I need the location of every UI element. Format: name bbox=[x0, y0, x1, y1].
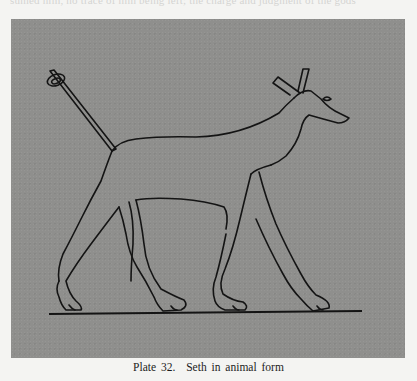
plate-number: Plate 32. bbox=[133, 361, 175, 373]
bleed-through-text: sumed him, no trace of him being left; t… bbox=[10, 0, 410, 6]
plate-caption: Plate 32. Seth in animal form bbox=[0, 361, 417, 373]
plate-illustration bbox=[11, 19, 405, 358]
seth-animal-icon bbox=[11, 19, 405, 358]
plate-title: Seth in animal form bbox=[186, 361, 284, 373]
